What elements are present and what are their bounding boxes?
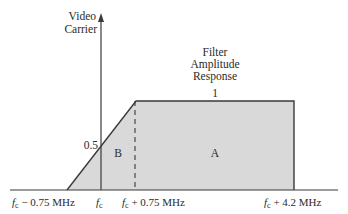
filter-response-diagram: Video Carrier Filter Amplitude Response … <box>0 0 348 214</box>
title-line-3: Response <box>193 70 237 83</box>
tick-fc-plus-42: fc + 4.2 MHz <box>264 196 322 210</box>
tick-fc-plus-075: fc + 0.75 MHz <box>122 196 185 210</box>
region-b-label: B <box>114 147 122 159</box>
tick-fc: fc <box>96 196 103 210</box>
y-axis-label-line-1: Video <box>69 10 97 22</box>
level-half-label: 0.5 <box>84 139 99 151</box>
level-one-label: 1 <box>212 87 218 99</box>
arrow-up-icon <box>98 13 104 22</box>
region-a-label: A <box>211 147 220 159</box>
y-axis-label-line-2: Carrier <box>64 23 97 35</box>
tick-fc-minus-075: fc − 0.75 MHz <box>12 196 75 210</box>
title-line-1: Filter <box>203 46 228 58</box>
